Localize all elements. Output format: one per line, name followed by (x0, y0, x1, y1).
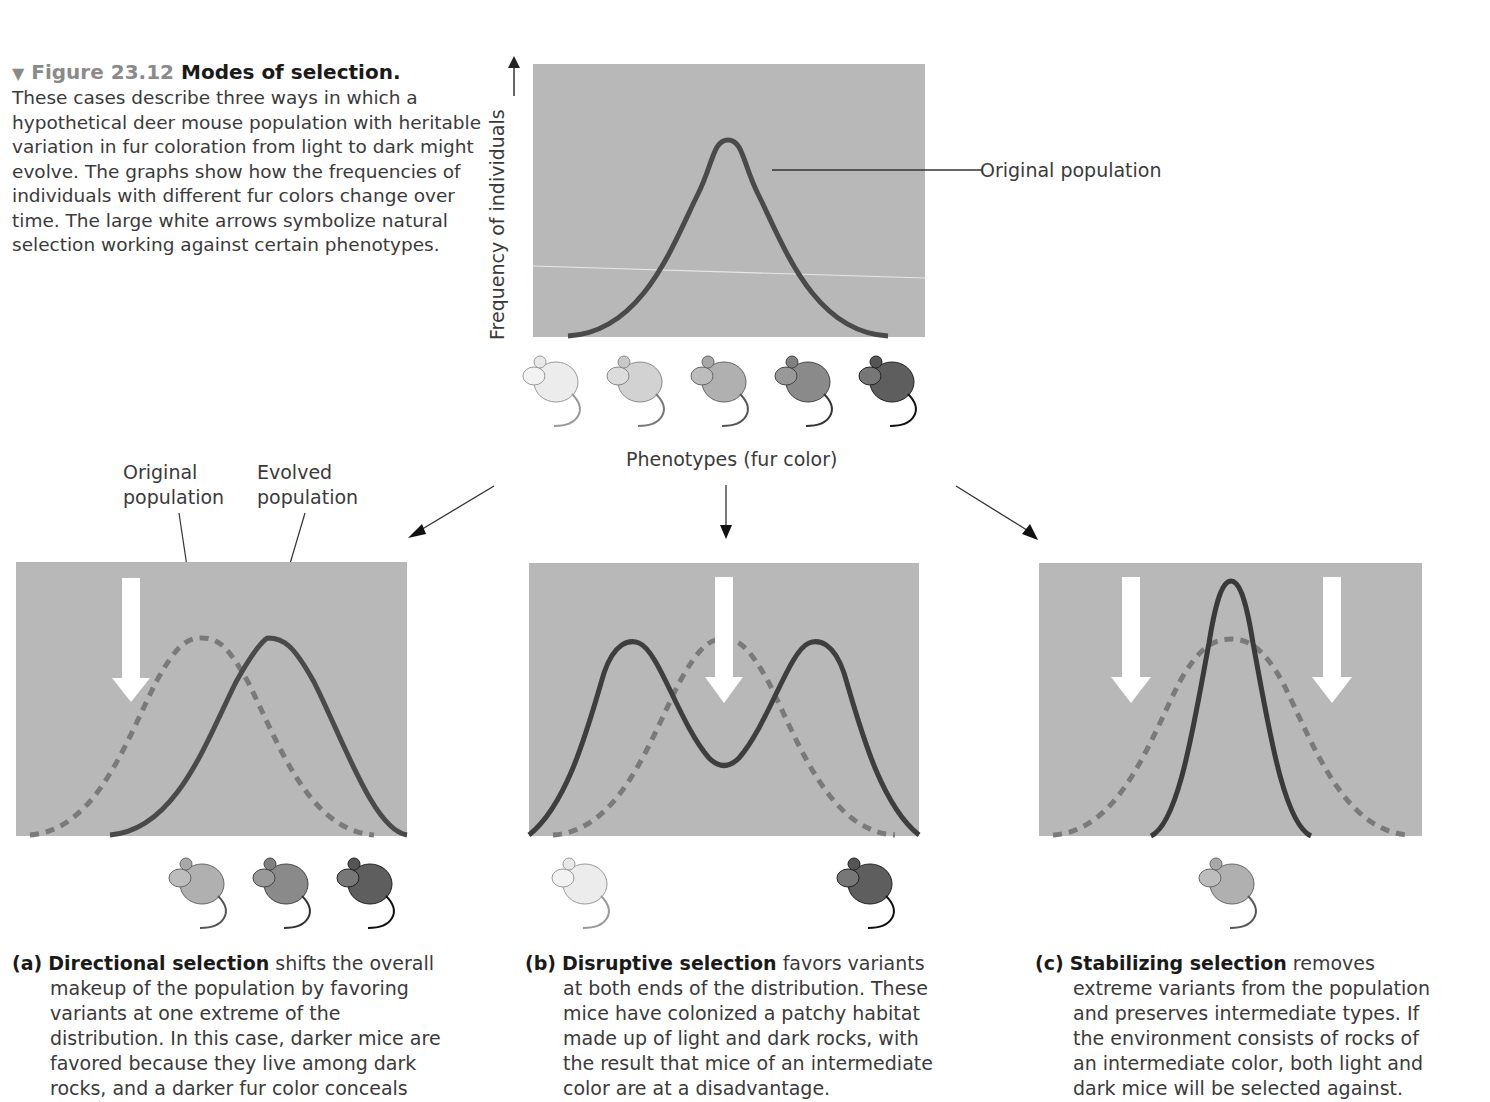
panel-b-tag: (b) (525, 952, 556, 974)
panel-a-description: (a) Directional selection shifts the ove… (12, 951, 452, 1101)
arrow-to-panel-a-icon (400, 480, 500, 542)
mouse-icon-intermediate (686, 350, 758, 430)
mouse-icon-light (602, 350, 674, 430)
top-graph-curve (533, 64, 925, 337)
y-axis-label: Frequency of individuals (486, 109, 508, 340)
figure-heading: Modes of selection. (181, 60, 401, 84)
x-axis-label: Phenotypes (fur color) (626, 447, 837, 472)
panel-a-tag: (a) (12, 952, 42, 974)
panel-c-curves (1039, 563, 1422, 836)
panel-b-body: at both ends of the distribution. These … (525, 976, 945, 1101)
mouse-icon-lightest (545, 852, 623, 932)
panel-c-title: Stabilizing selection (1070, 952, 1287, 974)
arrow-to-panel-c-icon (954, 484, 1044, 544)
mouse-icon-intermediate (1192, 852, 1270, 932)
selection-arrow-icon (112, 578, 150, 702)
panel-b-title: Disruptive selection (562, 952, 777, 974)
mouse-icon-dark (246, 852, 324, 932)
mouse-icon-darkest (854, 350, 926, 430)
y-axis-arrow-icon (508, 56, 520, 96)
panel-a-leader-lines (0, 0, 1, 1)
mouse-icon-darkest (830, 852, 908, 932)
panel-c-body: extreme variants from the population and… (1035, 976, 1445, 1101)
panel-a-title: Directional selection (48, 952, 269, 974)
panel-c-tag: (c) (1035, 952, 1064, 974)
panel-c-description: (c) Stabilizing selection removes extrem… (1035, 951, 1445, 1101)
panel-a-curves (16, 562, 407, 836)
mouse-icon-darkest (330, 852, 408, 932)
mouse-icon-lightest (518, 350, 590, 430)
triangle-down-icon: ▼ (12, 64, 24, 83)
mouse-icon-dark (770, 350, 842, 430)
panel-a-evolved-label: Evolved population (257, 460, 358, 510)
arrow-to-panel-b-icon (718, 485, 734, 541)
panel-b-curves (529, 563, 919, 836)
selection-arrow-icon-right (1312, 577, 1352, 703)
panel-a-body: makeup of the population by favoring var… (12, 976, 452, 1101)
mouse-icon-intermediate (162, 852, 240, 932)
figure-caption: These cases describe three ways in which… (12, 86, 482, 258)
mice-phenotype-row (518, 350, 902, 430)
original-population-label: Original population (980, 158, 1162, 183)
panel-b-description: (b) Disruptive selection favors variants… (525, 951, 945, 1101)
figure-number: Figure 23.12 (31, 60, 174, 84)
panel-a-original-label: Original population (123, 460, 224, 510)
panel-a-mice (162, 852, 408, 932)
figure-title: ▼ Figure 23.12 Modes of selection. (12, 60, 401, 84)
selection-arrow-icon-left (1111, 577, 1151, 703)
